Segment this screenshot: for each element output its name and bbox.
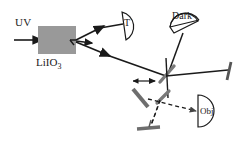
- crystal-label: LiIO3: [36, 57, 61, 71]
- right-mirror[interactable]: [227, 62, 231, 80]
- beam-to-splitter: [76, 42, 166, 76]
- lower-beam-splitter[interactable]: [157, 91, 169, 103]
- pump-beam-label: UV: [15, 17, 32, 28]
- beam-splitter-to-right-mirror: [166, 70, 228, 76]
- crystal-label-subscript: 3: [57, 62, 61, 71]
- optics-diagram: UV LiIO3 T Dark Obj: [0, 0, 250, 143]
- bottom-mirror[interactable]: [137, 120, 160, 129]
- dashed-beam-paths: [148, 99, 196, 128]
- detector-t-label: T: [124, 18, 130, 28]
- translating-mirror[interactable]: [133, 89, 148, 107]
- detector-obj-label: Obj: [200, 107, 214, 116]
- detector-dark-label: Dark: [172, 11, 192, 21]
- crystal-label-text: LiIO: [36, 56, 57, 68]
- beam-to-detector-t: [76, 24, 123, 40]
